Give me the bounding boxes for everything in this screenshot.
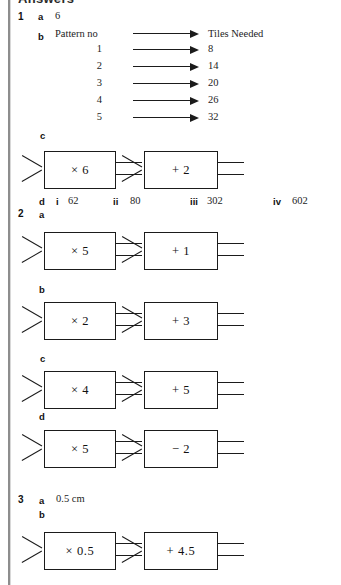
- machine-operation-label: − 2: [172, 442, 190, 457]
- mapping-arrow-icon: [133, 49, 191, 50]
- question-2-part-b-label: b: [39, 284, 45, 295]
- machine-input-stroke-top: [122, 434, 143, 447]
- machine-operation-box: + 3: [144, 302, 218, 340]
- mapping-row: 4 26: [0, 94, 341, 108]
- roman-answer-iv: 602: [292, 195, 308, 206]
- function-machine: + 2: [122, 147, 237, 193]
- mapping-output: 8: [208, 43, 213, 54]
- machine-output-stroke-bottom: [218, 255, 244, 256]
- machine-input-stroke-bottom: [22, 170, 43, 183]
- machine-operation-label: + 1: [172, 244, 190, 259]
- mapping-row: 3 20: [0, 77, 341, 91]
- machine-input-stroke-top: [122, 236, 143, 249]
- mapping-input: 2: [78, 60, 102, 71]
- machine-input-stroke-bottom: [122, 390, 143, 403]
- mapping-arrow-icon: [133, 83, 191, 84]
- question-2-part-a-label: a: [39, 209, 44, 220]
- machine-input-stroke-top: [22, 155, 43, 168]
- mapping-row: 5 32: [0, 111, 341, 125]
- question-number-1: 1: [18, 11, 24, 22]
- question-3-part-b-label: b: [39, 509, 45, 520]
- machine-input-stroke-bottom: [22, 321, 43, 334]
- page-heading-clipped: Answers: [18, 0, 74, 3]
- mapping-output: 20: [208, 77, 219, 88]
- machine-output-stroke-top: [218, 382, 244, 383]
- machine-operation-box: − 2: [144, 430, 218, 468]
- roman-answer-iii: 302: [207, 195, 223, 206]
- machine-operation-label: × 5: [71, 442, 89, 457]
- mapping-arrow-icon: [133, 66, 191, 67]
- function-machine: × 4: [22, 367, 132, 413]
- mapping-left-header: Pattern no: [55, 28, 98, 39]
- machine-operation-box: × 6: [44, 151, 116, 189]
- machine-input-stroke-bottom: [122, 321, 143, 334]
- question-2-part-d-label: d: [39, 411, 45, 422]
- roman-numeral-iii: iii: [190, 196, 198, 207]
- machine-output-stroke-bottom: [218, 394, 244, 395]
- machine-operation-label: + 5: [172, 383, 190, 398]
- machine-operation-box: + 5: [144, 371, 218, 409]
- function-machine: − 2: [122, 426, 237, 472]
- machine-operation-label: + 2: [172, 163, 190, 178]
- mapping-arrow-icon: [133, 33, 191, 34]
- machine-input-stroke-top: [122, 306, 143, 319]
- mapping-right-header: Tiles Needed: [208, 28, 263, 39]
- function-machine: × 6: [22, 147, 132, 193]
- machine-input-stroke-top: [22, 306, 43, 319]
- mapping-arrow-icon: [133, 117, 191, 118]
- machine-input-stroke-bottom: [22, 390, 43, 403]
- machine-operation-box: × 4: [44, 371, 116, 409]
- mapping-header-row: Pattern no Tiles Needed: [0, 27, 341, 41]
- machine-input-stroke-bottom: [22, 449, 43, 462]
- function-machine: × 5: [22, 228, 132, 274]
- function-machine: + 5: [122, 367, 237, 413]
- roman-answer-i: 62: [68, 195, 79, 206]
- machine-input-stroke-top: [122, 536, 143, 549]
- machine-input-stroke-bottom: [22, 251, 43, 264]
- machine-input-stroke-top: [122, 155, 143, 168]
- question-1-part-a-answer: 6: [55, 10, 60, 21]
- mapping-input: 4: [78, 94, 102, 105]
- roman-numeral-iv: iv: [273, 196, 281, 207]
- mapping-output: 14: [208, 60, 219, 71]
- machine-output-stroke-top: [218, 543, 244, 544]
- question-3-part-a-answer: 0.5 cm: [56, 493, 85, 504]
- machine-operation-box: × 2: [44, 302, 116, 340]
- machine-operation-label: × 4: [71, 383, 89, 398]
- mapping-row: 1 8: [0, 43, 341, 57]
- machine-operation-label: × 2: [71, 314, 89, 329]
- mapping-arrow-icon: [133, 100, 191, 101]
- machine-operation-box: + 4.5: [144, 532, 218, 570]
- machine-output-stroke-top: [218, 313, 244, 314]
- roman-numeral-i: i: [56, 196, 59, 207]
- machine-output-stroke-bottom: [218, 174, 244, 175]
- machine-operation-box: × 5: [44, 430, 116, 468]
- mapping-output: 32: [208, 111, 219, 122]
- question-number-3: 3: [18, 494, 24, 505]
- question-1-part-d-label: d: [39, 196, 45, 207]
- machine-operation-label: × 6: [71, 163, 89, 178]
- mapping-input: 1: [78, 43, 102, 54]
- machine-input-stroke-bottom: [122, 449, 143, 462]
- function-machine: + 3: [122, 298, 237, 344]
- machine-input-stroke-bottom: [122, 551, 143, 564]
- machine-operation-box: × 5: [44, 232, 116, 270]
- machine-operation-label: × 0.5: [66, 544, 95, 559]
- machine-operation-box: + 1: [144, 232, 218, 270]
- question-2-part-c-label: c: [40, 353, 45, 364]
- machine-output-stroke-top: [218, 441, 244, 442]
- machine-operation-label: × 5: [71, 244, 89, 259]
- machine-operation-box: + 2: [144, 151, 218, 189]
- answers-page: Answers 1 a 6 b Pattern no Tiles Needed …: [0, 0, 341, 585]
- function-machine: + 4.5: [122, 528, 237, 574]
- machine-output-stroke-bottom: [218, 325, 244, 326]
- machine-operation-label: + 4.5: [167, 544, 196, 559]
- question-1-part-c-label: c: [40, 130, 45, 141]
- mapping-row: 2 14: [0, 60, 341, 74]
- machine-input-stroke-top: [122, 375, 143, 388]
- machine-input-stroke-top: [22, 536, 43, 549]
- machine-output-stroke-top: [218, 162, 244, 163]
- function-machine: × 5: [22, 426, 132, 472]
- function-machine: + 1: [122, 228, 237, 274]
- function-machine: × 2: [22, 298, 132, 344]
